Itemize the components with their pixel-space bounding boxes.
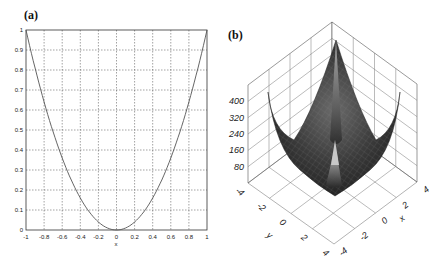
z-tick-label: 240 bbox=[228, 129, 244, 139]
y-tick-label: -2 bbox=[255, 201, 268, 214]
z-tick-label: 160 bbox=[229, 145, 244, 155]
x-tick-label: 4 bbox=[421, 184, 431, 195]
x-tick-label: -2 bbox=[358, 230, 371, 243]
z-tick-label: 320 bbox=[229, 113, 244, 123]
z-tick-label: 80 bbox=[234, 162, 244, 172]
y-tick-label: 2 bbox=[299, 231, 310, 243]
y-tick-label: 0 bbox=[278, 217, 288, 228]
y-tick-label: 4 bbox=[321, 247, 331, 258]
x-tick-label: -4 bbox=[337, 245, 350, 258]
y-axis-label: y bbox=[264, 229, 275, 241]
y-tick-label: -4 bbox=[234, 185, 247, 198]
x-axis-label: x bbox=[396, 213, 407, 225]
z-axis-ticks: 80160240320400 bbox=[228, 96, 244, 171]
x-tick-label: 2 bbox=[399, 200, 410, 212]
y-axis-ticks: -4-2024 bbox=[234, 185, 331, 258]
surface-chart-b: 80160240320400 -4-2024 420-2-4 y x bbox=[0, 0, 447, 266]
z-tick-label: 400 bbox=[229, 96, 244, 106]
x-tick-label: 0 bbox=[379, 215, 389, 226]
